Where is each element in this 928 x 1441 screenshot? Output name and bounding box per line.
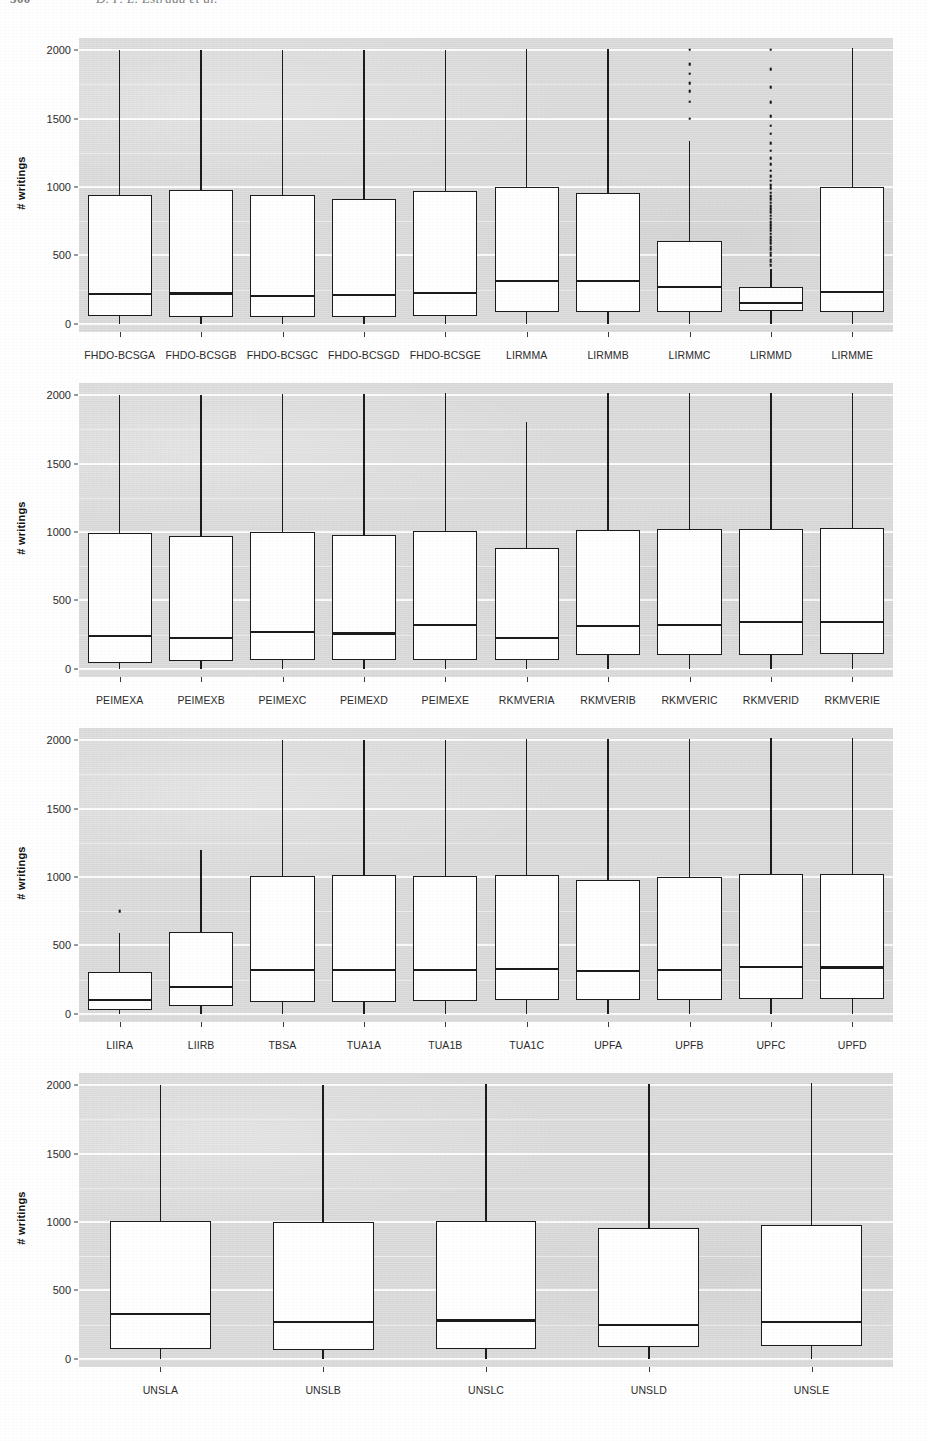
median-line	[332, 969, 396, 971]
running-head-text: D. P. L. Estrada et al.	[96, 0, 218, 7]
box-iqr	[657, 241, 721, 312]
x-tick-mark	[445, 332, 446, 337]
x-tick-mark	[364, 332, 365, 337]
y-tick-mark	[74, 532, 78, 533]
x-tick-mark	[283, 1022, 284, 1027]
box-iqr	[820, 528, 884, 654]
x-tick-label-LIRMMC: LIRMMC	[668, 349, 710, 361]
x-tick-label-PEIMEXA: PEIMEXA	[96, 694, 143, 706]
x-tick-mark	[852, 1022, 853, 1027]
x-tick-mark	[120, 1022, 121, 1027]
whisker-lower	[282, 317, 284, 324]
x-tick-mark	[120, 677, 121, 682]
outlier-point	[770, 221, 773, 224]
outlier-point	[118, 910, 121, 913]
whisker-upper	[119, 933, 121, 972]
whisker-lower	[607, 312, 609, 324]
whisker-upper	[445, 740, 447, 876]
box-iqr	[413, 876, 477, 1002]
y-tick-label: 0	[37, 1008, 71, 1020]
median-line	[250, 969, 314, 971]
median-line	[273, 1321, 374, 1323]
x-tick-mark	[323, 1367, 324, 1372]
median-line	[576, 625, 640, 627]
whisker-lower	[322, 1350, 324, 1358]
y-tick-mark	[74, 50, 78, 51]
whisker-lower	[485, 1349, 487, 1358]
x-tick-label-FHDO-BCSGE: FHDO-BCSGE	[410, 349, 481, 361]
median-line	[761, 1321, 862, 1323]
whisker-lower	[852, 654, 854, 668]
whisker-lower	[689, 1000, 691, 1014]
median-line	[110, 1313, 211, 1315]
whisker-lower	[282, 1002, 284, 1014]
whisker-upper	[119, 395, 121, 533]
whisker-upper	[770, 269, 772, 287]
whisker-lower	[689, 312, 691, 324]
outlier-point	[770, 232, 773, 235]
median-line	[169, 986, 233, 988]
boxplot-figure: # writings0500100015002000FHDO-BCSGAFHDO…	[0, 0, 928, 1441]
x-tick-label-FHDO-BCSGC: FHDO-BCSGC	[247, 349, 319, 361]
box-iqr	[169, 932, 233, 1007]
whisker-lower	[363, 1002, 365, 1014]
whisker-lower	[200, 1006, 202, 1014]
outlier-point	[770, 254, 773, 257]
y-tick-mark	[74, 255, 78, 256]
whisker-upper	[648, 1084, 650, 1228]
y-tick-mark	[74, 1222, 78, 1223]
x-tick-mark	[527, 1022, 528, 1027]
x-tick-label-TBSA: TBSA	[269, 1039, 297, 1051]
outlier-point	[688, 100, 691, 103]
whisker-lower	[526, 312, 528, 324]
median-line	[820, 966, 884, 968]
box-iqr	[495, 187, 559, 312]
x-tick-mark	[649, 1367, 650, 1372]
outlier-point	[770, 236, 773, 239]
box-iqr	[820, 187, 884, 312]
median-line	[657, 969, 721, 971]
box-iqr	[273, 1222, 374, 1350]
whisker-lower	[160, 1349, 162, 1359]
whisker-upper	[445, 393, 447, 530]
whisker-upper	[445, 50, 447, 191]
median-line	[169, 292, 233, 294]
median-line	[332, 294, 396, 296]
x-tick-mark	[608, 1022, 609, 1027]
whisker-lower	[119, 316, 121, 324]
whisker-upper	[200, 395, 202, 537]
x-tick-label-PEIMEXE: PEIMEXE	[422, 694, 469, 706]
box-iqr	[576, 880, 640, 1000]
x-tick-mark	[283, 332, 284, 337]
median-line	[657, 286, 721, 288]
y-tick-label: 1000	[37, 526, 71, 538]
x-tick-label-LIIRA: LIIRA	[106, 1039, 133, 1051]
outlier-point	[770, 150, 773, 153]
median-line	[332, 632, 396, 634]
x-tick-label-TUA1B: TUA1B	[428, 1039, 462, 1051]
x-tick-mark	[608, 677, 609, 682]
whisker-lower	[852, 999, 854, 1013]
x-tick-mark	[771, 332, 772, 337]
x-tick-label-RKMVERIE: RKMVERIE	[824, 694, 880, 706]
outlier-point	[770, 115, 773, 118]
x-tick-label-UNSLA: UNSLA	[143, 1384, 179, 1396]
whisker-lower	[648, 1347, 650, 1359]
median-line	[820, 621, 884, 623]
y-axis-label-2: # writings	[15, 468, 27, 588]
x-tick-mark	[608, 332, 609, 337]
box-iqr	[739, 874, 803, 999]
whisker-upper	[526, 49, 528, 187]
whisker-lower	[811, 1346, 813, 1359]
x-tick-label-TUA1A: TUA1A	[347, 1039, 381, 1051]
x-tick-mark	[690, 332, 691, 337]
median-line	[576, 970, 640, 972]
y-tick-mark	[74, 463, 78, 464]
outlier-point	[770, 239, 773, 242]
box-iqr	[332, 199, 396, 317]
whisker-upper	[200, 50, 202, 190]
y-tick-mark	[74, 187, 78, 188]
y-tick-mark	[74, 1290, 78, 1291]
outlier-point	[770, 68, 773, 71]
x-tick-mark	[486, 1367, 487, 1372]
